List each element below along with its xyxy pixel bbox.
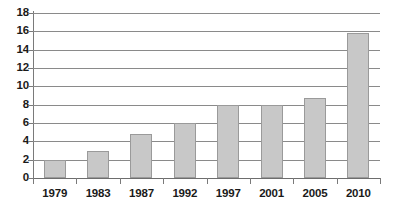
x-axis-labels: 19791983198719921997200120052010: [33, 186, 380, 206]
x-axis-tick-label: 2010: [346, 186, 371, 200]
y-axis-tick-label: 18: [3, 7, 29, 19]
y-axis-labels: 024681012141618: [0, 0, 29, 209]
x-axis-tick-label: 1983: [86, 186, 111, 200]
x-axis-tick-label: 2005: [303, 186, 328, 200]
x-axis-tick-label: 1992: [172, 186, 197, 200]
x-axis-tick-label: 1997: [216, 186, 241, 200]
x-axis-tick-mark: [250, 178, 251, 184]
x-axis-tick-mark: [293, 178, 294, 184]
bar-slot: [293, 13, 336, 178]
y-axis-tick-label: 4: [3, 136, 29, 148]
bar[interactable]: [304, 98, 326, 178]
bar[interactable]: [217, 105, 239, 178]
y-axis-tick-label: 12: [3, 62, 29, 74]
bar-slot: [76, 13, 119, 178]
bar[interactable]: [347, 33, 369, 178]
y-axis-tick-label: 16: [3, 26, 29, 38]
y-axis-tick-label: 10: [3, 81, 29, 93]
x-axis-tick-label: 2001: [259, 186, 284, 200]
bar-slot: [163, 13, 206, 178]
bar[interactable]: [130, 134, 152, 178]
bar-slot: [207, 13, 250, 178]
x-axis-tick-mark: [120, 178, 121, 184]
x-axis-tick-mark: [76, 178, 77, 184]
bar-slot: [337, 13, 380, 178]
bar[interactable]: [174, 123, 196, 178]
bar[interactable]: [261, 105, 283, 178]
bar[interactable]: [44, 160, 66, 178]
x-axis-tick-label: 1979: [42, 186, 67, 200]
x-axis-tick-mark: [380, 178, 381, 184]
x-axis-tick-mark: [163, 178, 164, 184]
plot-area: [33, 13, 380, 178]
x-axis-tick-label: 1987: [129, 186, 154, 200]
y-axis-tick-label: 0: [3, 172, 29, 184]
y-axis-tick-label: 6: [3, 117, 29, 129]
x-axis-tick-mark: [337, 178, 338, 184]
x-axis-tick-mark: [33, 178, 34, 184]
x-axis-tick-mark: [207, 178, 208, 184]
bar-slot: [33, 13, 76, 178]
bar-slot: [250, 13, 293, 178]
y-axis-tick-label: 2: [3, 154, 29, 166]
y-axis-tick-label: 14: [3, 44, 29, 56]
bar[interactable]: [87, 151, 109, 178]
y-axis-tick-label: 8: [3, 99, 29, 111]
bar-slot: [120, 13, 163, 178]
bar-chart: 024681012141618 197919831987199219972001…: [0, 0, 396, 209]
